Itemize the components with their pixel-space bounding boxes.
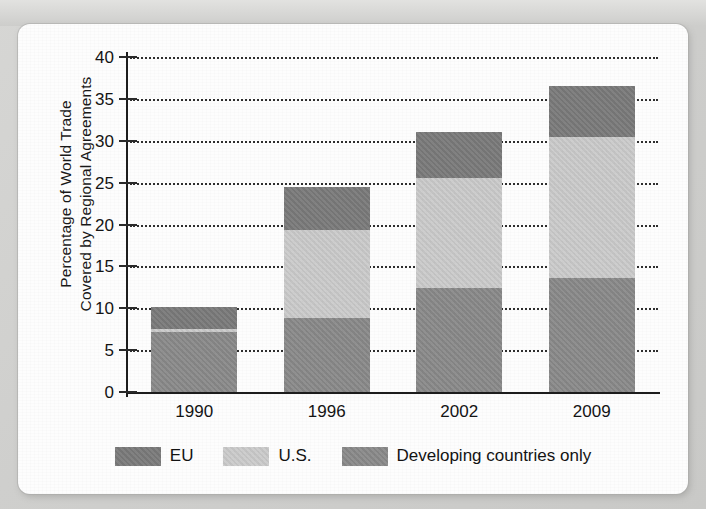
legend-swatch-dev (342, 447, 388, 466)
y-axis-tick-label: 0 (105, 384, 114, 401)
bar-segment-dev[interactable] (416, 288, 502, 392)
bar-segment-eu[interactable] (416, 132, 502, 178)
x-axis-label-2009: 2009 (532, 402, 652, 422)
legend-swatch-us (223, 447, 269, 466)
y-axis-tick (119, 98, 137, 100)
bar-segment-us[interactable] (151, 329, 237, 332)
bar-segment-dev[interactable] (151, 332, 237, 392)
y-axis-tick (119, 265, 137, 267)
legend: EUU.S.Developing countries only (18, 442, 688, 470)
y-axis-tick-label: 5 (105, 342, 114, 359)
y-axis-tick (119, 224, 137, 226)
y-axis-title: Percentage of World Trade Covered by Reg… (56, 44, 96, 344)
legend-label-eu: EU (170, 446, 194, 466)
scanned-page-background: Percentage of World Trade Covered by Reg… (0, 0, 706, 509)
chart-card: Percentage of World Trade Covered by Reg… (18, 24, 688, 494)
bar-segment-eu[interactable] (549, 86, 635, 137)
y-axis-title-line1: Percentage of World Trade (56, 44, 76, 344)
y-axis-tick (119, 349, 137, 351)
y-axis-tick-label: 40 (95, 49, 114, 66)
bar-segment-dev[interactable] (549, 278, 635, 392)
legend-label-dev: Developing countries only (397, 446, 592, 466)
y-axis-title-line2: Covered by Regional Agreements (76, 44, 96, 344)
bar-segment-us[interactable] (549, 137, 635, 278)
y-axis-tick (119, 307, 137, 309)
bar-segment-us[interactable] (284, 230, 370, 318)
legend-label-us: U.S. (278, 446, 311, 466)
y-axis-tick (119, 182, 137, 184)
y-axis-tick-label: 10 (95, 300, 114, 317)
x-axis-label-2002: 2002 (399, 402, 519, 422)
y-axis-tick (119, 56, 137, 58)
bar-segment-eu[interactable] (151, 307, 237, 329)
y-axis-tick-label: 30 (95, 132, 114, 149)
bar-segment-dev[interactable] (284, 318, 370, 392)
y-axis-tick (119, 140, 137, 142)
legend-item-eu[interactable]: EU (115, 446, 194, 466)
y-axis-tick-label: 25 (95, 174, 114, 191)
gridline (130, 57, 658, 59)
legend-swatch-eu (115, 447, 161, 466)
bar-segment-eu[interactable] (284, 187, 370, 231)
x-axis-line (126, 392, 660, 394)
y-axis-tick-label: 35 (95, 90, 114, 107)
plot-area: 0510152025303540 (128, 57, 658, 392)
x-axis-label-1996: 1996 (267, 402, 387, 422)
y-axis-tick (119, 391, 137, 393)
y-axis-tick-label: 20 (95, 216, 114, 233)
y-axis-tick-label: 15 (95, 258, 114, 275)
bar-segment-us[interactable] (416, 178, 502, 288)
legend-item-us[interactable]: U.S. (223, 446, 311, 466)
legend-item-dev[interactable]: Developing countries only (342, 446, 592, 466)
x-axis-label-1990: 1990 (134, 402, 254, 422)
